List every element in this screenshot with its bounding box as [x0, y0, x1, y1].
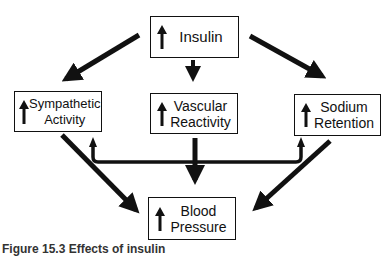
arrow-insulin-to-sodium: [250, 36, 322, 76]
node-blood-pressure: Blood Pressure: [148, 197, 236, 240]
label-line: Pressure: [165, 219, 232, 235]
label-line: Activity: [29, 112, 101, 128]
increase-arrow-icon: [155, 207, 165, 231]
label-line: Reactivity: [167, 114, 234, 130]
arrow-insulin-to-sympathetic: [66, 35, 139, 79]
node-sympathetic-activity: Sympathetic Activity: [14, 91, 102, 132]
label-line: Vascular: [167, 98, 234, 114]
figure-caption: Figure 15.3 Effects of insulin: [2, 242, 165, 256]
increase-arrow-icon: [301, 103, 311, 127]
node-insulin: Insulin: [150, 16, 239, 58]
increase-arrow-icon: [157, 25, 167, 49]
node-label: Sodium Retention: [311, 99, 380, 131]
increase-arrow-icon: [157, 102, 167, 126]
node-label: Insulin: [167, 29, 238, 45]
node-vascular-reactivity: Vascular Reactivity: [150, 93, 238, 134]
label-line: Insulin: [167, 29, 235, 45]
arrow-sodium-to-bp: [256, 141, 330, 208]
arrow-sympathetic-to-bp: [62, 135, 136, 210]
node-label: Vascular Reactivity: [167, 98, 237, 130]
label-line: Sodium: [311, 99, 377, 115]
node-sodium-retention: Sodium Retention: [294, 94, 381, 136]
increase-arrow-icon: [19, 100, 29, 124]
label-line: Sympathetic: [29, 96, 101, 112]
bracket-arrowhead-sympathetic: [89, 137, 97, 147]
node-label: Sympathetic Activity: [29, 96, 104, 128]
label-line: Retention: [311, 115, 377, 131]
node-label: Blood Pressure: [165, 203, 235, 235]
bracket-arrowhead-sodium: [297, 137, 305, 147]
label-line: Blood: [165, 203, 232, 219]
